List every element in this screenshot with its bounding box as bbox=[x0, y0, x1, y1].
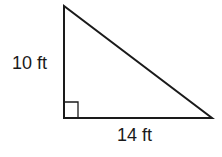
triangle-figure bbox=[0, 0, 222, 157]
vertical-leg-label: 10 ft bbox=[12, 54, 47, 72]
right-triangle bbox=[64, 6, 212, 118]
horizontal-leg-label: 14 ft bbox=[117, 126, 152, 144]
right-angle-marker bbox=[64, 102, 78, 118]
